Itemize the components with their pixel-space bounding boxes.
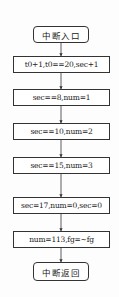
start-node: 中断入口	[33, 26, 89, 43]
process-node-sec15: sec==15,num=3	[13, 157, 110, 174]
flow-arrows	[0, 0, 119, 297]
process-node-sec10: sec==10,num=2	[13, 123, 110, 140]
process-node-sec17: sec=17,num=0,sec=0	[13, 197, 110, 214]
process-node-timer: t0+1,t0==20,sec+1	[13, 56, 110, 73]
end-node: 中断返回	[33, 262, 89, 281]
process-node-sec8: sec==8,num=1	[13, 89, 110, 106]
process-node-num113: num=113,fg=~fg	[13, 231, 110, 248]
